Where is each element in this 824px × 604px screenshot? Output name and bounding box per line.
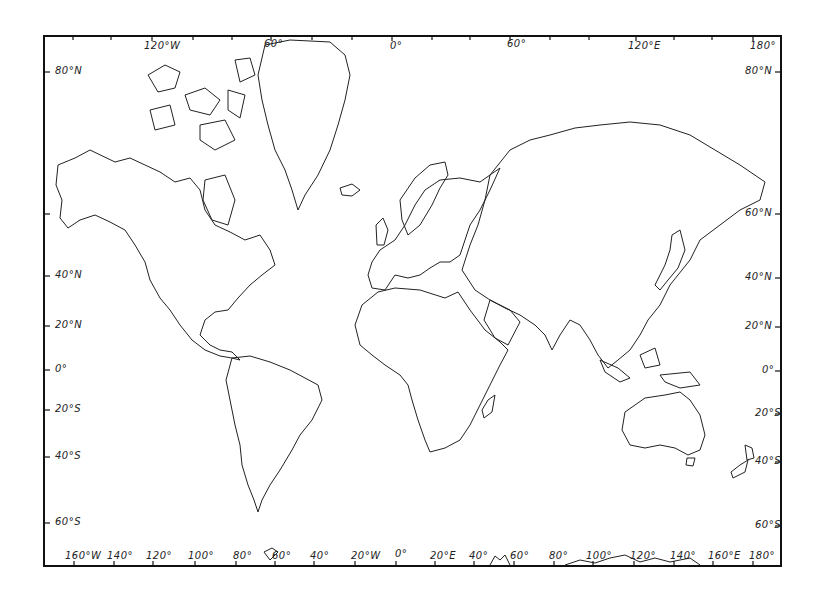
bottom-ticks: [74, 561, 753, 567]
lon-label-180: 180°: [749, 550, 775, 561]
lat-label-0-right: 0°: [762, 364, 774, 375]
lat-label-20n-left: 20°N: [55, 319, 82, 330]
lat-label-80n-right: 80°N: [745, 65, 772, 76]
lon-label-100w: 100°: [188, 550, 214, 561]
lon-label-120w-top: 120°W: [144, 40, 180, 51]
hudson-bay: [203, 175, 235, 225]
lat-label-40s-left: 40°S: [55, 450, 81, 461]
iceland: [340, 184, 360, 196]
new-zealand: [731, 445, 754, 478]
scandinavia: [400, 162, 448, 235]
lon-label-0: 0°: [395, 548, 407, 559]
lat-label-20s-right: 20°S: [755, 407, 781, 418]
lon-label-80w: 80°: [233, 550, 252, 561]
lat-label-60s-left: 60°S: [55, 516, 81, 527]
lat-label-40n-left: 40°N: [55, 269, 82, 280]
lon-label-100e: 100°: [586, 550, 612, 561]
arctic-islands: [148, 58, 255, 150]
lon-label-40e: 40°: [469, 550, 488, 561]
north-america: [56, 150, 275, 360]
lat-label-40n-right: 40°N: [745, 271, 772, 282]
japan: [655, 230, 685, 290]
lon-label-60w: 60°: [272, 550, 291, 561]
lon-label-160w: 160°W: [65, 550, 101, 561]
tasmania: [686, 458, 695, 466]
lat-label-60n-right: 60°N: [745, 207, 772, 218]
lat-label-80n-left: 80°N: [55, 65, 82, 76]
lon-label-140e: 140°: [670, 550, 696, 561]
indonesia: [600, 348, 700, 388]
lat-label-40s-right: 40°S: [755, 455, 781, 466]
lon-label-140w: 140°: [107, 550, 133, 561]
lat-label-20s-left: 20°S: [55, 403, 81, 414]
lon-label-160e: 160°E: [708, 550, 741, 561]
australia: [622, 392, 705, 455]
lon-label-120e-top: 120°E: [628, 40, 661, 51]
lon-label-120e: 120°: [630, 550, 656, 561]
lon-label-20e: 20°E: [430, 550, 456, 561]
lat-label-20n-right: 20°N: [745, 320, 772, 331]
africa: [355, 288, 508, 452]
lon-label-60e-top: 60°: [507, 38, 526, 49]
lon-label-0-top: 0°: [390, 40, 402, 51]
lon-label-120w: 120°: [146, 550, 172, 561]
greenland: [258, 40, 350, 210]
lon-label-80e: 80°: [549, 550, 568, 561]
side-ticks: [43, 72, 782, 526]
world-map-outline: [0, 0, 824, 604]
lon-label-20w: 20°W: [351, 550, 381, 561]
asia: [462, 122, 765, 368]
lat-label-0-left: 0°: [55, 363, 67, 374]
lat-label-60s-right: 60°S: [755, 519, 781, 530]
lon-label-180-top: 180°: [750, 40, 776, 51]
lon-label-60e: 60°: [510, 550, 529, 561]
british-isles: [376, 218, 388, 245]
south-america: [226, 356, 322, 512]
lon-label-60w-top: 60°: [264, 38, 283, 49]
lon-label-40w: 40°: [310, 550, 329, 561]
madagascar: [482, 395, 495, 418]
